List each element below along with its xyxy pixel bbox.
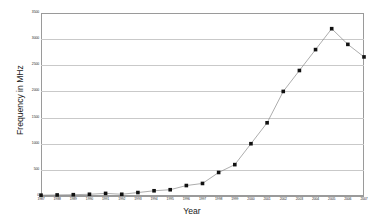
x-tick-label: 1992 xyxy=(118,198,125,201)
gridline xyxy=(41,39,364,40)
x-tick-label: 1996 xyxy=(183,198,190,201)
x-tick-label: 2002 xyxy=(280,198,287,201)
x-tick-label: 1990 xyxy=(86,198,93,201)
chart-container: 0500100015002000250030003500 19871988198… xyxy=(0,0,384,224)
y-tick-label: 3000 xyxy=(13,37,39,40)
x-tick-label: 2000 xyxy=(247,198,254,201)
x-tick-label: 2006 xyxy=(344,198,351,201)
x-tick-label: 1988 xyxy=(54,198,61,201)
x-tick-label: 1998 xyxy=(215,198,222,201)
x-tick-label: 1991 xyxy=(102,198,109,201)
x-tick-label: 2001 xyxy=(264,198,271,201)
plot-area xyxy=(41,13,364,196)
x-tick-label: 1999 xyxy=(231,198,238,201)
x-tick-label: 1995 xyxy=(167,198,174,201)
x-tick-label: 1997 xyxy=(199,198,206,201)
gridline xyxy=(41,13,364,14)
x-tick-label: 1994 xyxy=(150,198,157,201)
gridline xyxy=(41,65,364,66)
y-tick-label: 3500 xyxy=(13,11,39,14)
x-axis-title: Year xyxy=(0,206,384,216)
gridline xyxy=(41,118,364,119)
gridline xyxy=(41,144,364,145)
gridline xyxy=(41,170,364,171)
y-axis-title: Frequency in MHz xyxy=(15,45,25,155)
x-tick-label: 2004 xyxy=(312,198,319,201)
x-tick-label: 2005 xyxy=(328,198,335,201)
gridline xyxy=(41,91,364,92)
x-tick-label: 1989 xyxy=(70,198,77,201)
y-tick-label: 500 xyxy=(13,168,39,171)
x-tick-label: 2007 xyxy=(360,198,367,201)
y-tick-label: 0 xyxy=(13,194,39,197)
x-tick-label: 1987 xyxy=(37,198,44,201)
x-tick-label: 1993 xyxy=(134,198,141,201)
x-tick-label: 2003 xyxy=(296,198,303,201)
